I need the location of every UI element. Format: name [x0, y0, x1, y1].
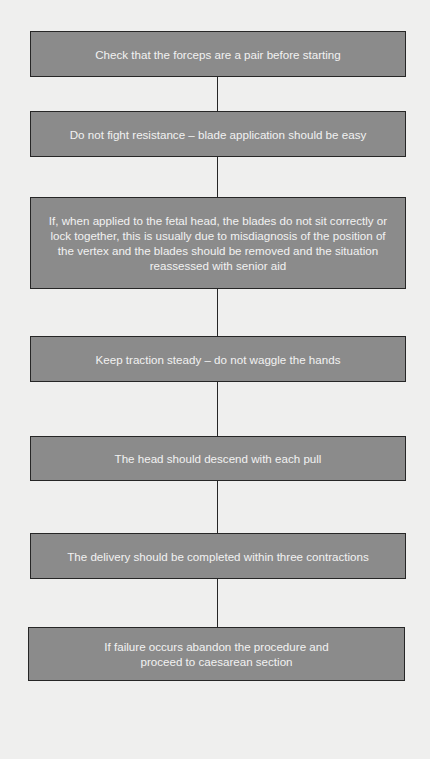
step-text-3: If, when applied to the fetal head, the …: [41, 213, 395, 273]
step-box-4: Keep traction steady – do not waggle the…: [30, 336, 406, 382]
connector-2-3: [217, 157, 219, 197]
step-box-2: Do not fight resistance – blade applicat…: [30, 111, 406, 157]
forceps-delivery-flowchart: Check that the forceps are a pair before…: [0, 0, 430, 759]
step-text-4: Keep traction steady – do not waggle the…: [96, 352, 341, 367]
step-text-2: Do not fight resistance – blade applicat…: [70, 127, 366, 142]
connector-4-5: [217, 382, 219, 436]
connector-5-6: [217, 481, 219, 533]
step-box-7: If failure occurs abandon the procedure …: [28, 627, 405, 681]
connector-6-7: [217, 579, 219, 627]
step-box-1: Check that the forceps are a pair before…: [30, 31, 406, 77]
step-box-6: The delivery should be completed within …: [30, 533, 406, 579]
step-text-6: The delivery should be completed within …: [67, 549, 369, 564]
step-text-5: The head should descend with each pull: [115, 451, 322, 466]
step-box-5: The head should descend with each pull: [30, 436, 406, 481]
connector-3-4: [217, 289, 219, 336]
step-box-3: If, when applied to the fetal head, the …: [30, 197, 406, 289]
step-text-7: If failure occurs abandon the procedure …: [89, 639, 344, 669]
step-text-1: Check that the forceps are a pair before…: [95, 47, 341, 62]
connector-1-2: [217, 77, 219, 111]
